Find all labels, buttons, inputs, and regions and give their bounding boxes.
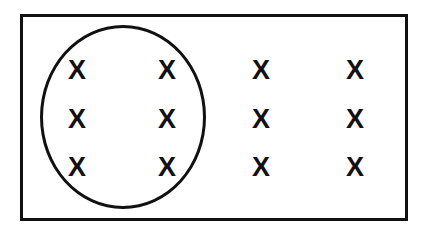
element-mark: X bbox=[62, 104, 92, 134]
element-mark: X bbox=[246, 104, 276, 134]
element-mark: X bbox=[340, 104, 370, 134]
element-mark: X bbox=[152, 152, 182, 182]
element-mark: X bbox=[340, 152, 370, 182]
element-mark: X bbox=[62, 152, 92, 182]
element-mark: X bbox=[152, 55, 182, 85]
element-mark: X bbox=[246, 55, 276, 85]
element-mark: X bbox=[340, 55, 370, 85]
element-mark: X bbox=[62, 55, 92, 85]
element-mark: X bbox=[152, 104, 182, 134]
diagram-canvas: XXXXXXXXXXXX bbox=[0, 0, 422, 231]
element-mark: X bbox=[246, 152, 276, 182]
